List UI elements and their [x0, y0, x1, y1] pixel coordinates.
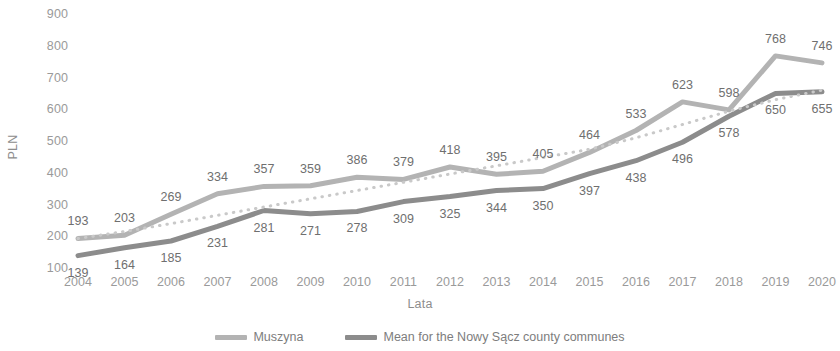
data-point-label: 231 — [207, 236, 228, 250]
plot-area — [0, 0, 840, 351]
x-tick-label: 2014 — [529, 275, 557, 289]
data-point-label: 357 — [253, 162, 274, 176]
data-point-label: 768 — [765, 32, 786, 46]
data-point-label: 397 — [579, 184, 600, 198]
data-point-label: 185 — [160, 251, 181, 265]
data-point-label: 496 — [672, 152, 693, 166]
data-point-label: 164 — [114, 258, 135, 272]
data-point-label: 623 — [672, 78, 693, 92]
data-point-label: 193 — [67, 214, 88, 228]
data-point-label: 271 — [300, 224, 321, 238]
x-tick-label: 2012 — [436, 275, 464, 289]
data-point-label: 418 — [439, 143, 460, 157]
x-tick-label: 2013 — [482, 275, 510, 289]
x-tick-label: 2018 — [715, 275, 743, 289]
data-point-label: 746 — [811, 39, 832, 53]
x-tick-label: 2015 — [575, 275, 603, 289]
data-point-label: 281 — [253, 221, 274, 235]
x-tick-label: 2005 — [110, 275, 138, 289]
data-point-label: 139 — [67, 266, 88, 280]
legend-label: Muszyna — [253, 330, 303, 344]
legend-swatch-icon — [345, 335, 377, 340]
legend-item[interactable]: Mean for the Nowy Sącz county communes — [345, 330, 624, 344]
x-tick-label: 2019 — [761, 275, 789, 289]
data-point-label: 379 — [393, 155, 414, 169]
line-chart: 100200300400500600700800900 PLN Lata 200… — [0, 0, 840, 351]
data-point-label: 578 — [718, 126, 739, 140]
data-point-label: 278 — [346, 221, 367, 235]
x-tick-label: 2017 — [668, 275, 696, 289]
data-point-label: 203 — [114, 211, 135, 225]
x-tick-label: 2011 — [390, 275, 417, 289]
x-tick-label: 2008 — [250, 275, 278, 289]
data-point-label: 269 — [160, 190, 181, 204]
x-tick-label: 2007 — [203, 275, 231, 289]
x-tick-label: 2010 — [343, 275, 371, 289]
x-tick-label: 2016 — [622, 275, 650, 289]
data-point-label: 325 — [439, 207, 460, 221]
x-tick-label: 2006 — [157, 275, 185, 289]
data-point-label: 350 — [532, 199, 553, 213]
data-point-label: 533 — [625, 107, 646, 121]
data-point-label: 386 — [346, 153, 367, 167]
legend-swatch-icon — [215, 335, 247, 340]
chart-legend: MuszynaMean for the Nowy Sącz county com… — [0, 330, 840, 344]
data-point-label: 650 — [765, 103, 786, 117]
data-point-label: 655 — [811, 102, 832, 116]
x-tick-label: 2009 — [296, 275, 324, 289]
data-point-label: 344 — [486, 201, 507, 215]
data-point-label: 438 — [625, 171, 646, 185]
legend-label: Mean for the Nowy Sącz county communes — [383, 330, 624, 344]
data-point-label: 405 — [532, 147, 553, 161]
data-point-label: 464 — [579, 128, 600, 142]
data-point-label: 334 — [207, 170, 228, 184]
data-point-label: 309 — [393, 212, 414, 226]
data-point-label: 359 — [300, 162, 321, 176]
data-point-label: 598 — [718, 86, 739, 100]
legend-item[interactable]: Muszyna — [215, 330, 303, 344]
data-point-label: 395 — [486, 150, 507, 164]
x-tick-label: 2020 — [808, 275, 836, 289]
